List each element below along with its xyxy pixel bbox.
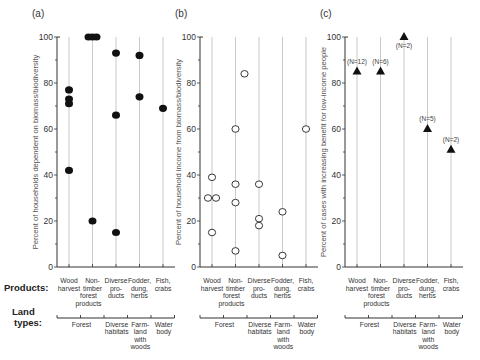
panel-b: (b)020406080100Percent of household inco…: [174, 8, 318, 350]
y-axis-label: Percent of households dependent on bioma…: [31, 54, 40, 249]
land-type-label: habitats: [393, 328, 417, 335]
y-tick-label: 40: [44, 170, 54, 180]
land-type-label: land: [422, 328, 435, 335]
product-label: crabs: [155, 285, 172, 292]
product-label: ducts: [108, 292, 125, 299]
product-label: Non-: [228, 277, 243, 284]
data-point: [208, 229, 215, 236]
data-point: [232, 248, 239, 255]
panel-label: (a): [32, 8, 44, 19]
land-type-label: body: [444, 328, 459, 336]
data-point-triangle: [376, 67, 385, 75]
y-tick-label: 20: [187, 216, 197, 226]
product-label: harvest: [58, 285, 80, 292]
product-label: Wood: [348, 277, 366, 284]
product-label: forest: [223, 292, 240, 299]
product-label: forest: [80, 292, 97, 299]
data-point: [255, 181, 262, 188]
land-type-label: Water: [155, 321, 174, 328]
land-type-label: Diverse: [393, 321, 416, 328]
land-type-label: habitats: [105, 328, 129, 335]
product-label: Fodder,: [128, 277, 151, 284]
data-point: [112, 50, 120, 57]
land-type-label: Forest: [360, 321, 379, 328]
data-point-triangle: [447, 145, 456, 153]
y-tick-label: 80: [187, 78, 197, 88]
land-type-label: Forest: [72, 321, 91, 328]
data-point: [65, 167, 73, 174]
data-point-triangle: [400, 32, 409, 40]
land-type-label: body: [299, 328, 314, 336]
product-label: Fish,: [444, 277, 459, 284]
sample-size-label: (N=5): [419, 115, 435, 123]
product-label: Fodder,: [416, 277, 439, 284]
land-type-label: with: [133, 336, 146, 343]
product-label: harvest: [346, 285, 368, 292]
sample-size-label: (N=2): [443, 136, 459, 144]
data-point: [136, 93, 144, 100]
data-point: [112, 229, 120, 236]
y-axis-label: Percent of cases with increasing benefit…: [319, 47, 328, 257]
land-type-label: Farm-: [419, 321, 437, 328]
product-label: Diverse: [247, 277, 270, 284]
product-label: crabs: [298, 285, 315, 292]
land-type-label: woods: [272, 343, 293, 350]
product-label: herbs: [419, 292, 437, 299]
product-label: Non-: [85, 277, 100, 284]
land-type-label: land: [277, 328, 290, 335]
data-point: [232, 199, 239, 206]
data-point: [93, 33, 101, 40]
product-label: ducts: [396, 292, 413, 299]
product-label: herbs: [274, 292, 292, 299]
product-label: timber: [371, 285, 391, 292]
land-type-label: land: [134, 328, 147, 335]
product-label: harvest: [201, 285, 223, 292]
products-row-label: Products:: [4, 282, 48, 293]
data-point: [279, 252, 286, 259]
product-label: forest: [368, 292, 385, 299]
product-label: products: [363, 300, 390, 308]
land-type-label: Diverse: [105, 321, 128, 328]
land-types-row-label: types:: [14, 317, 42, 328]
data-point: [302, 126, 309, 133]
figure-canvas: (a)020406080100Percent of households dep…: [0, 0, 480, 360]
panel-label: (c): [320, 8, 332, 19]
data-point: [255, 222, 262, 229]
land-type-label: Forest: [215, 321, 234, 328]
y-tick-label: 0: [336, 262, 341, 272]
y-tick-label: 80: [44, 78, 54, 88]
product-label: Diverse: [392, 277, 415, 284]
land-type-label: Farm-: [131, 321, 149, 328]
product-label: timber: [83, 285, 103, 292]
land-type-label: Water: [298, 321, 317, 328]
land-type-label: body: [156, 328, 171, 336]
y-tick-label: 60: [187, 124, 197, 134]
y-tick-label: 60: [332, 124, 342, 134]
data-point-triangle: [423, 124, 432, 132]
product-label: Wood: [60, 277, 78, 284]
data-point: [208, 174, 215, 181]
data-point-triangle: [353, 67, 362, 75]
y-tick-label: 20: [44, 216, 54, 226]
land-type-label: woods: [129, 343, 150, 350]
y-tick-label: 100: [39, 32, 53, 42]
product-label: Non-: [373, 277, 388, 284]
land-type-label: Farm-: [274, 321, 292, 328]
product-label: ducts: [251, 292, 268, 299]
y-axis-label: Percent of household income from biomass…: [174, 59, 183, 245]
y-tick-label: 40: [187, 170, 197, 180]
land-type-label: habitats: [248, 328, 272, 335]
product-label: Fodder,: [271, 277, 294, 284]
product-label: Diverse: [104, 277, 127, 284]
y-tick-label: 0: [191, 262, 196, 272]
product-label: timber: [226, 285, 246, 292]
y-tick-label: 20: [332, 216, 342, 226]
y-tick-label: 80: [332, 78, 342, 88]
data-point: [212, 195, 219, 202]
product-label: products: [218, 300, 245, 308]
y-tick-label: 0: [48, 262, 53, 272]
panel-label: (b): [175, 8, 187, 19]
y-tick-label: 40: [332, 170, 342, 180]
data-point: [204, 195, 211, 202]
y-tick-label: 60: [44, 124, 54, 134]
